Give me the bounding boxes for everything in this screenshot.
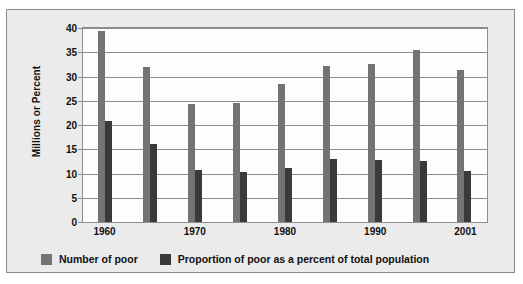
y-tick-label: 15 (51, 144, 77, 155)
x-tick-label-empty (308, 226, 353, 242)
bar (150, 144, 157, 222)
bar (413, 50, 420, 222)
bar (188, 104, 195, 222)
x-tick-label-empty (398, 226, 443, 242)
x-tick-label: 1970 (172, 226, 217, 242)
y-tick-label: 30 (51, 71, 77, 82)
gridline (83, 222, 487, 223)
y-tick-label: 35 (51, 47, 77, 58)
bar-group (98, 28, 112, 222)
legend-swatch (41, 254, 52, 265)
chart-figure-frame: Millions or Percent 4035302520151050 196… (6, 9, 515, 273)
legend-swatch (160, 254, 171, 265)
y-tick-label: 20 (51, 120, 77, 131)
bar-group (323, 28, 337, 222)
y-axis-tick-labels: 4035302520151050 (47, 27, 77, 223)
x-tick-label-empty (127, 226, 172, 242)
bar-group (368, 28, 382, 222)
bar (240, 172, 247, 222)
y-tick-label: 25 (51, 95, 77, 106)
legend-label: Proportion of poor as a percent of total… (178, 253, 429, 265)
x-tick-label: 1990 (353, 226, 398, 242)
bar (323, 66, 330, 222)
bar-group (457, 28, 471, 222)
bar-group (143, 28, 157, 222)
bar (98, 31, 105, 222)
bar-group (413, 28, 427, 222)
bar (143, 67, 150, 222)
bar (330, 159, 337, 222)
bar-groups (83, 28, 487, 222)
bar (278, 84, 285, 222)
y-tick-label: 10 (51, 168, 77, 179)
x-tick-label-empty (217, 226, 262, 242)
y-tick-label: 0 (51, 217, 77, 228)
x-tick-label: 2001 (443, 226, 488, 242)
bar (368, 64, 375, 222)
bar (233, 103, 240, 222)
bar (285, 168, 292, 222)
chart-legend: Number of poorProportion of poor as a pe… (41, 253, 429, 265)
bar (195, 170, 202, 222)
y-axis-title: Millions or Percent (31, 47, 42, 177)
x-axis-tick-labels: 19601970198019902001 (82, 226, 488, 242)
bar-group (278, 28, 292, 222)
bar (457, 70, 464, 222)
y-tick-label: 40 (51, 23, 77, 34)
bar-group (188, 28, 202, 222)
x-tick-label: 1960 (82, 226, 127, 242)
legend-entry: Proportion of poor as a percent of total… (160, 253, 429, 265)
y-tick-label: 5 (51, 192, 77, 203)
bar (420, 161, 427, 222)
x-tick-label: 1980 (262, 226, 307, 242)
legend-label: Number of poor (59, 253, 138, 265)
bar-group (233, 28, 247, 222)
bar (375, 160, 382, 222)
bar (464, 171, 471, 222)
bar (105, 121, 112, 222)
legend-entry: Number of poor (41, 253, 138, 265)
plot-area (82, 27, 488, 223)
